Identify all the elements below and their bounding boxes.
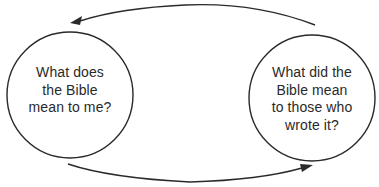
- right-node-line-4: wrote it?: [256, 117, 368, 135]
- right-node-line-2: Bible mean: [256, 82, 368, 100]
- left-node-line-3: mean to me?: [20, 99, 120, 117]
- left-node-label: What does the Bible mean to me?: [20, 64, 120, 117]
- hermeneutic-cycle-diagram: What does the Bible mean to me? What did…: [0, 0, 379, 187]
- top-arrow-curve: [80, 5, 315, 25]
- top-arrow-head-icon: [70, 16, 82, 25]
- bottom-arrow-curve: [68, 164, 302, 182]
- left-node-line-1: What does: [20, 64, 120, 82]
- right-node-line-3: to those who: [256, 99, 368, 117]
- left-node-line-2: the Bible: [20, 82, 120, 100]
- bottom-arrow-head-icon: [300, 164, 313, 172]
- right-node-label: What did the Bible mean to those who wro…: [256, 64, 368, 134]
- right-node-line-1: What did the: [256, 64, 368, 82]
